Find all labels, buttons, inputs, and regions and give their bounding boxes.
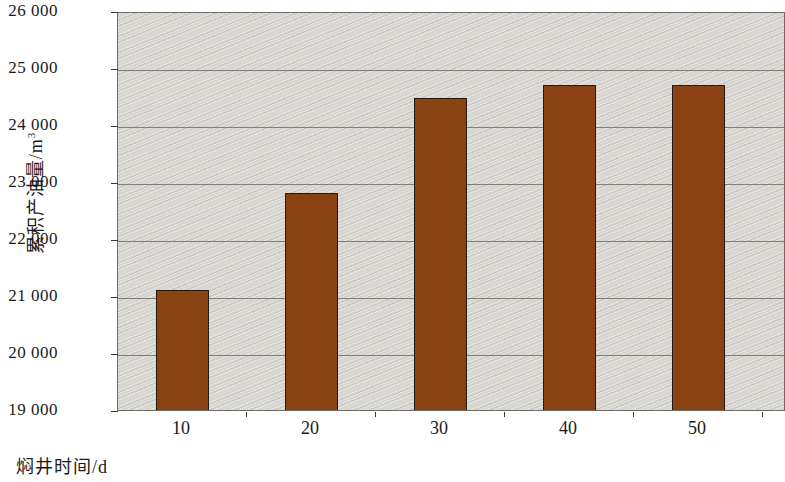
bar	[414, 98, 467, 410]
bar	[672, 85, 725, 410]
y-axis-tick-mark	[111, 411, 118, 412]
x-axis-tick-label: 30	[399, 418, 479, 439]
x-axis-title-text: 焖井时间/d	[16, 457, 108, 477]
plot-area	[117, 12, 785, 411]
x-axis-tick-label: 20	[270, 418, 350, 439]
x-axis-tick-mark	[504, 412, 505, 417]
bar	[285, 193, 338, 410]
y-axis-tick-mark	[111, 126, 118, 127]
y-axis-tick-label: 19 000	[0, 400, 58, 420]
x-axis-tick-mark	[375, 412, 376, 417]
y-axis-tick-mark	[111, 240, 118, 241]
y-axis-tick-mark	[111, 12, 118, 13]
x-axis-tick-label: 50	[657, 418, 737, 439]
y-axis-tick-label: 26 000	[0, 1, 58, 21]
y-axis-tick-mark	[111, 183, 118, 184]
y-axis-title-text: 累积产油量/m	[26, 138, 46, 254]
gridline	[118, 70, 784, 71]
x-axis-title: 焖井时间/d	[0, 452, 770, 478]
y-axis-tick-mark	[111, 69, 118, 70]
x-axis-tick-label: 40	[528, 418, 608, 439]
x-axis-tick-mark	[246, 412, 247, 417]
x-axis-tick-mark	[633, 412, 634, 417]
y-axis-title-exponent: 3	[25, 132, 37, 139]
bar	[543, 85, 596, 410]
x-axis-tick-label: 10	[141, 418, 221, 439]
y-axis-tick-mark	[111, 354, 118, 355]
x-axis-tick-mark	[762, 412, 763, 417]
y-axis-title: 累积产油量/m3	[21, 63, 47, 323]
y-axis-tick-label: 20 000	[0, 343, 58, 363]
bar	[156, 290, 209, 410]
y-axis-tick-mark	[111, 297, 118, 298]
